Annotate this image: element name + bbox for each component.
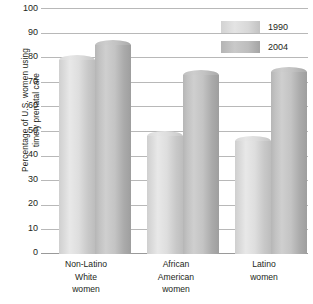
x-category-latino: Latino women (219, 258, 309, 283)
bar-body (235, 141, 271, 254)
bar-1990-african-american[interactable] (147, 131, 183, 254)
bar-body (183, 75, 219, 255)
legend-swatch-icon-2004 (221, 41, 260, 53)
y-tick-label-0: 0 (8, 248, 38, 257)
y-tick-label-50: 50 (8, 126, 38, 135)
bar-body (95, 45, 131, 254)
prenatal-care-bar-chart: Percentage of U.S. women using timely pr… (0, 0, 313, 304)
x-axis-labels: Non-Latino White women African American … (41, 258, 308, 304)
gridline-100 (41, 8, 308, 9)
x-category-non-latino-white: Non-Latino White women (41, 258, 131, 296)
bar-1990-latino[interactable] (235, 136, 271, 254)
y-tick-label-40: 40 (8, 150, 38, 159)
y-tick-label-30: 30 (8, 175, 38, 184)
legend-item-1990[interactable]: 1990 (221, 20, 307, 35)
y-tick-label-60: 60 (8, 101, 38, 110)
y-tick-label-70: 70 (8, 77, 38, 86)
bar-body (271, 72, 307, 254)
chart-legend: 1990 2004 (221, 20, 307, 60)
legend-label-2004: 2004 (268, 42, 288, 52)
bar-1990-non-latino-white[interactable] (59, 55, 95, 254)
x-category-african-american: African American women (131, 258, 221, 296)
legend-label-1990: 1990 (268, 22, 288, 32)
legend-swatch-icon-1990 (221, 21, 260, 33)
bar-body (147, 136, 183, 254)
y-tick-label-100: 100 (8, 4, 38, 13)
bar-2004-latino[interactable] (271, 67, 307, 254)
y-tick-label-80: 80 (8, 52, 38, 61)
y-tick-label-10: 10 (8, 224, 38, 233)
legend-item-2004[interactable]: 2004 (221, 40, 307, 55)
bar-2004-african-american[interactable] (183, 70, 219, 255)
y-tick-label-20: 20 (8, 199, 38, 208)
y-tick-label-90: 90 (8, 28, 38, 37)
bar-body (59, 60, 95, 254)
bar-2004-non-latino-white[interactable] (95, 40, 131, 254)
